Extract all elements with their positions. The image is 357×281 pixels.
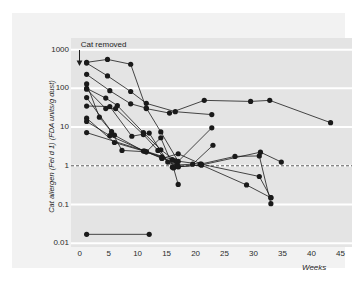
data-point [97,115,102,120]
x-tick-label: 10 [125,249,151,259]
data-point [279,159,284,164]
data-point [268,195,273,200]
data-point [112,140,117,145]
data-point [328,120,333,125]
data-point [158,129,163,134]
chart-canvas [71,38,352,247]
y-tick-label: 100 [25,84,69,92]
data-point [248,99,253,104]
x-tick-label: 20 [183,249,209,259]
data-point [141,132,146,137]
x-tick-label: 5 [96,249,122,259]
data-point [84,103,89,108]
data-point [84,87,89,92]
y-tick-label: 0.01 [25,239,69,247]
data-point [84,232,89,237]
data-point [105,73,110,78]
x-tick-label: 35 [270,249,296,259]
data-point [176,164,181,169]
data-point [84,72,89,77]
data-point [84,60,89,65]
data-point [170,157,175,162]
data-point [258,150,263,155]
cat-removed-label: Cat removed [81,40,127,49]
data-point [257,174,262,179]
figure-root: Cat allergen (Fel d 1) (FDA units/g dust… [0,0,357,281]
series-markers [84,57,333,237]
data-point [176,151,181,156]
x-tick-label: 25 [212,249,238,259]
data-point [147,130,152,135]
x-tick-label: 15 [154,249,180,259]
data-point [209,125,214,130]
data-point [144,105,149,110]
down-arrow-icon [75,50,84,66]
data-point [107,104,112,109]
data-point [267,98,272,103]
data-point [128,62,133,67]
data-point [209,112,214,117]
x-axis-title: Weeks [302,263,326,272]
y-tick-label: 0.1 [25,201,69,209]
y-axis-ticks: 10001001010.10.01 [22,38,69,247]
y-tick-label: 1 [25,162,69,170]
data-point [167,110,172,115]
plot-area [71,38,352,247]
x-tick-label: 45 [327,249,353,259]
data-point [173,109,178,114]
data-point [158,135,163,140]
y-tick-label: 1000 [25,46,69,54]
data-point [147,232,152,237]
data-point [113,106,118,111]
data-point [84,119,89,124]
data-point [144,101,149,106]
data-point [176,182,181,187]
data-point [202,98,207,103]
data-point [244,182,249,187]
data-point [232,154,237,159]
data-point [105,57,110,62]
chart-panel: Cat allergen (Fel d 1) (FDA units/g dust… [12,13,345,268]
data-point [142,148,147,153]
data-point [165,159,170,164]
x-tick-label: 40 [298,249,324,259]
data-point [128,101,133,106]
data-point [268,201,273,206]
data-point [129,134,134,139]
data-point [155,148,160,153]
series-lines [87,59,331,234]
data-point [84,130,89,135]
data-point [119,148,124,153]
data-point [107,88,112,93]
data-point [190,162,195,167]
data-point [103,96,108,101]
x-tick-label: 30 [241,249,267,259]
data-point [210,143,215,148]
data-point [199,162,204,167]
x-tick-label: 0 [67,249,93,259]
data-point [84,95,89,100]
data-point [159,155,164,160]
x-axis-ticks: 051015202530354045 [71,249,352,263]
y-tick-label: 10 [25,123,69,131]
data-point [107,133,112,138]
data-point [128,89,133,94]
series-line [87,59,331,122]
